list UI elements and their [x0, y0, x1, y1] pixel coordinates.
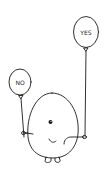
character-smile [49, 139, 56, 142]
egg-character [22, 93, 87, 163]
character-right-arm [64, 137, 84, 144]
cartoon-drawing: YES NO [0, 0, 109, 176]
character-eye [49, 120, 53, 124]
yes-label: YES [79, 29, 91, 36]
no-label: NO [15, 79, 24, 86]
illustration: YES NO [0, 0, 109, 176]
character-body [28, 93, 78, 158]
